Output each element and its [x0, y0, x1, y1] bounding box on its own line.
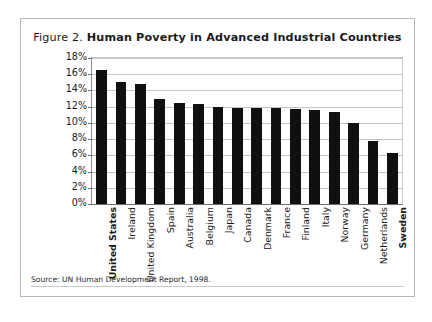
x-axis-tick-label: Sweden	[396, 207, 410, 249]
bar	[232, 108, 243, 204]
y-axis-tick-label: 10%	[66, 117, 87, 127]
bar	[309, 110, 320, 204]
x-axis-tick-label: Belgium	[203, 207, 217, 245]
bar	[174, 103, 185, 204]
x-axis-tick-label: Germany	[358, 207, 372, 250]
x-axis-tick-label: Australia	[183, 207, 197, 248]
bar	[348, 123, 359, 204]
bar	[368, 141, 379, 204]
bar-series	[92, 58, 402, 204]
y-axis-tick-label: 4%	[72, 166, 87, 176]
bar	[135, 84, 146, 204]
bar	[116, 82, 127, 204]
y-axis-tick-label: 12%	[66, 101, 87, 111]
y-axis-tick-label: 6%	[72, 150, 87, 160]
figure-number-label: Figure 2.	[33, 31, 83, 44]
source-divider	[31, 286, 404, 287]
x-axis-tick-label: Canada	[241, 207, 255, 243]
x-axis-tick-label: Denmark	[261, 207, 275, 250]
y-axis-tick-label: 18%	[66, 52, 87, 62]
y-axis-tick-label: 0%	[72, 198, 87, 208]
bar	[271, 108, 282, 204]
figure-title-text: Human Poverty in Advanced Industrial Cou…	[87, 31, 402, 44]
bar-chart: Level of Poverty 18%16%14%12%10%8%6%4%2%…	[31, 57, 406, 247]
y-axis-tick-label: 14%	[66, 85, 87, 95]
x-axis-tick-label: Italy	[319, 207, 333, 227]
bar	[387, 153, 398, 204]
x-axis-tick-label: Spain	[164, 207, 178, 233]
y-axis-tick-labels: 18%16%14%12%10%8%6%4%2%0%	[55, 57, 87, 205]
plot-area	[91, 57, 403, 205]
bar	[154, 99, 165, 204]
figure-frame: Figure 2. Human Poverty in Advanced Indu…	[20, 18, 415, 297]
x-axis-tick-label: Finland	[299, 207, 313, 241]
bar	[193, 104, 204, 204]
source-note: Source: UN Human Development Report, 199…	[31, 275, 211, 284]
bar	[290, 109, 301, 204]
y-axis-tick-label: 2%	[72, 182, 87, 192]
bar	[251, 108, 262, 204]
y-axis-tick-mark	[88, 204, 92, 205]
x-axis-tick-label: Ireland	[125, 207, 139, 239]
bar	[213, 107, 224, 204]
y-axis-tick-label: 16%	[66, 68, 87, 78]
x-axis-tick-label: France	[280, 207, 294, 238]
x-axis-tick-label: United Kingdom	[144, 207, 158, 282]
bar	[96, 70, 107, 204]
x-axis-tick-label: Norway	[338, 207, 352, 243]
y-axis-tick-label: 8%	[72, 133, 87, 143]
x-axis-tick-label: United States	[106, 207, 120, 279]
bar	[329, 112, 340, 204]
figure-title: Figure 2. Human Poverty in Advanced Indu…	[21, 31, 414, 44]
x-axis-tick-label: Japan	[222, 207, 236, 233]
x-axis-tick-label: Netherlands	[377, 207, 391, 264]
